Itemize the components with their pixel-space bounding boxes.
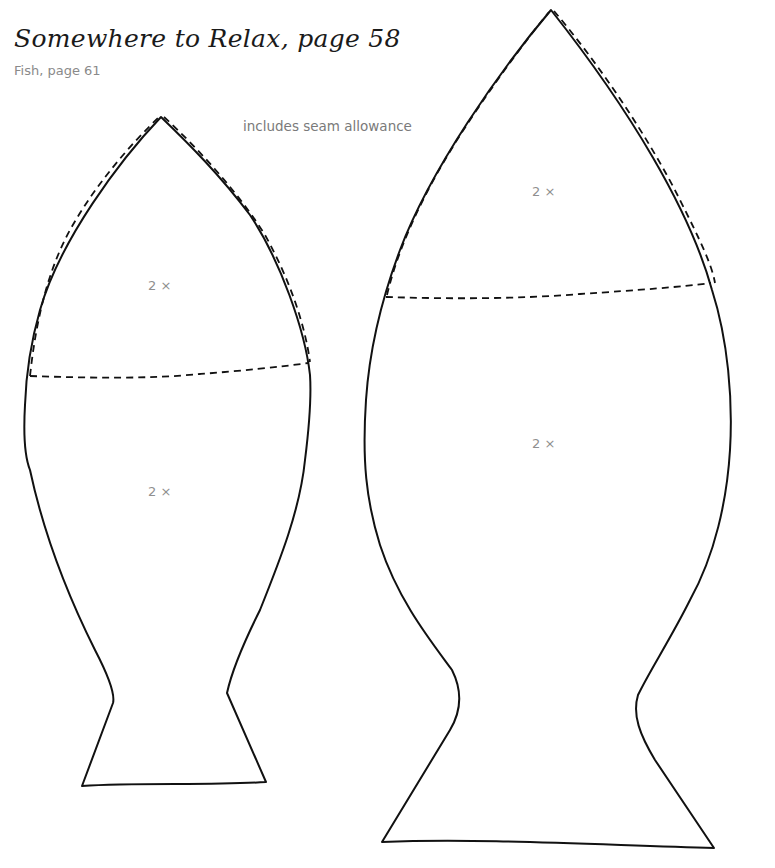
large-fish-outline xyxy=(365,10,731,848)
large-fish-head-seam-left xyxy=(387,12,549,295)
small-fish-head-seam-left xyxy=(30,118,158,376)
large-fish-seam-line xyxy=(386,283,711,298)
small-fish-outline xyxy=(24,117,310,786)
large-fish-body-quantity: 2 × xyxy=(532,436,555,451)
large-fish-head-quantity: 2 × xyxy=(532,184,555,199)
small-fish-seam-line xyxy=(30,363,308,378)
pattern-drawing xyxy=(0,0,775,868)
large-fish-head-seam-right xyxy=(554,11,715,283)
small-fish-head-seam-right xyxy=(164,117,310,362)
small-fish-body-quantity: 2 × xyxy=(148,484,171,499)
small-fish-head-quantity: 2 × xyxy=(148,278,171,293)
